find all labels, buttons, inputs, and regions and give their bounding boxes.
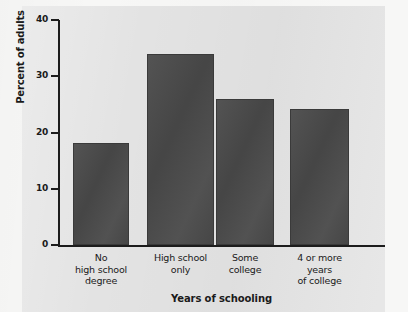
y-tick-label-10: 10 (22, 183, 48, 193)
x-axis-title: Years of schooling (58, 293, 385, 304)
y-tick-label-30: 30 (22, 70, 48, 80)
x-category-label-4: 4 or moreyearsof college (270, 252, 370, 287)
y-tick-0 (51, 244, 59, 246)
y-tick-label-0: 0 (22, 239, 48, 249)
page-bottom-margin (0, 312, 408, 323)
x-category-label-line: degree (51, 275, 151, 287)
y-tick-20 (51, 132, 59, 134)
bar-1 (73, 143, 129, 245)
y-tick-30 (51, 75, 59, 77)
y-axis-line (58, 20, 60, 247)
bar-4 (290, 109, 349, 245)
x-category-label-line: of college (270, 275, 370, 287)
bar-2 (147, 54, 214, 245)
y-tick-label-20: 20 (22, 127, 48, 137)
y-tick-40 (51, 19, 59, 21)
bar-3 (216, 99, 274, 245)
x-category-label-line: 4 or more (270, 252, 370, 264)
x-axis-line (58, 245, 385, 247)
chart-screenshot: Percent of adults 010203040 Nohigh schoo… (0, 0, 408, 323)
y-tick-label-40: 40 (22, 14, 48, 24)
x-category-label-line: years (270, 264, 370, 276)
y-tick-10 (51, 188, 59, 190)
